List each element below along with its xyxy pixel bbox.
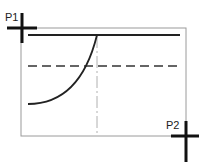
drawing-canvas <box>0 0 199 164</box>
p2-label: P2 <box>166 120 179 131</box>
bounding-frame <box>21 28 186 136</box>
p1-label: P1 <box>5 12 18 23</box>
arc-curve <box>28 35 97 104</box>
